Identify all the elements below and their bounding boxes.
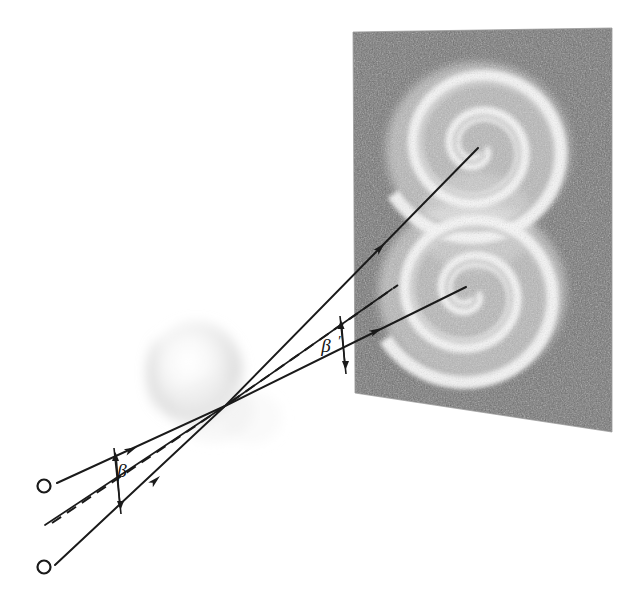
source-marker-upper xyxy=(38,480,51,493)
source-marker-lower xyxy=(38,561,51,574)
figure-root: O β β ′ xyxy=(0,0,637,596)
angle-label-beta-prime: β xyxy=(320,335,331,356)
plate-grain-overlay xyxy=(353,28,612,432)
angle-label-beta-prime-tick: ′ xyxy=(337,333,341,349)
photographic-plate xyxy=(353,28,612,432)
deflecting-mass xyxy=(147,322,282,444)
lensing-diagram: O β β ′ xyxy=(0,0,637,596)
angle-label-beta: β xyxy=(116,460,127,481)
